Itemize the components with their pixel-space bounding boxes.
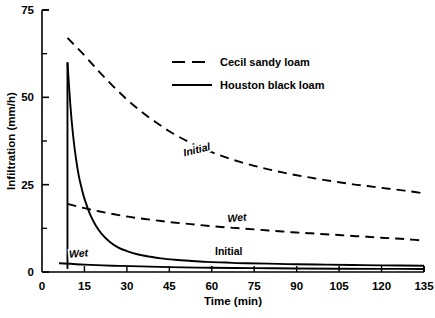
- y-axis-title: Infiltration (mm/h): [5, 92, 17, 190]
- x-tick-label: 60: [205, 280, 218, 292]
- x-tick-label: 135: [414, 280, 434, 292]
- y-tick-label: 75: [21, 4, 34, 16]
- y-tick-label: 50: [21, 91, 34, 103]
- x-tick-label: 75: [248, 280, 261, 292]
- x-tick-label: 120: [372, 280, 391, 292]
- x-tick-label: 105: [330, 280, 350, 292]
- x-tick-label: 30: [120, 280, 133, 292]
- y-tick-label: 0: [28, 266, 34, 278]
- legend-label-2: Houston black loam: [220, 79, 325, 91]
- curve-label: Wet: [227, 211, 248, 225]
- legend-label-1: Cecil sandy loam: [220, 56, 310, 68]
- chart-background: [0, 0, 435, 318]
- infiltration-line-chart: 02550750153045607590105120135 InitialIni…: [0, 0, 435, 318]
- chart-figure: 02550750153045607590105120135 InitialIni…: [0, 0, 435, 318]
- curve-label: Wet: [69, 246, 89, 259]
- x-tick-label: 0: [39, 280, 45, 292]
- y-tick-label: 25: [21, 179, 34, 191]
- x-tick-label: 15: [78, 280, 91, 292]
- curve-label: Initial: [215, 245, 243, 257]
- x-tick-label: 90: [290, 280, 303, 292]
- x-tick-label: 45: [163, 280, 176, 292]
- x-axis-title: Time (min): [204, 295, 262, 307]
